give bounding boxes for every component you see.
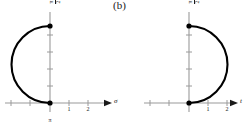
right-plot-marker-origin bbox=[186, 100, 191, 105]
right-plot-y-axis-label: π 2 bbox=[188, 0, 200, 4]
right-plot-x-tick-label-1: 1 bbox=[204, 106, 212, 112]
right-plot-marker-top bbox=[186, 23, 191, 28]
right-plot-x-tick-label-2: 2 bbox=[223, 106, 231, 112]
right-plot-x-axis-name: t bbox=[240, 97, 242, 105]
right-plot-x-axis-arrow bbox=[230, 100, 238, 106]
right-plot-semicircle-curve bbox=[189, 26, 228, 103]
figure-container: (b) π 2 π 1 2 σ bbox=[0, 0, 247, 130]
right-plot-y-label-denominator: 2 bbox=[195, 0, 201, 4]
